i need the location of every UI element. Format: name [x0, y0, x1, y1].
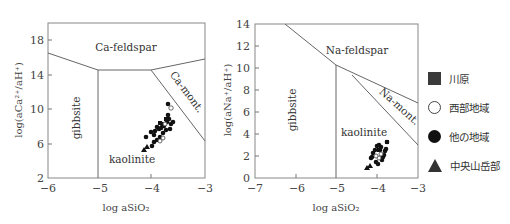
right-region-gibbsite: gibbsite — [286, 89, 298, 132]
legend-item-kawahara: 川原 — [428, 64, 510, 93]
right-region-kaolinite: kaolinite — [341, 126, 387, 138]
left-ytick-10: 10 — [30, 103, 44, 116]
left-region-ca-feldspar: Ca-feldspar — [95, 41, 157, 53]
legend-item-other-regions: 他の地域 — [428, 122, 510, 151]
left-region-ca-mont: Ca-mont. — [168, 69, 207, 115]
right-ytick-14: 14 — [236, 18, 250, 31]
right-ytick-2: 2 — [243, 150, 250, 163]
right-x-axis-label: log aSiO₂ — [312, 202, 359, 213]
left-ytick-18: 18 — [30, 34, 44, 47]
legend-label: 他の地域 — [449, 129, 489, 144]
left-xtick--4: −4 — [144, 182, 160, 195]
legend-label: 西部地域 — [449, 100, 489, 115]
right-ytick-8: 8 — [243, 84, 250, 97]
right-ytick-10: 10 — [236, 62, 250, 75]
left-region-kaolinite: kaolinite — [109, 153, 155, 165]
right-plot: 14 12 10 8 6 4 2 0 −7 −6 −5 −4 −3 log aS… — [222, 18, 426, 213]
left-xtick--3: −3 — [197, 182, 213, 195]
left-xtick--5: −5 — [92, 182, 108, 195]
filled-circle-marker-icon — [428, 130, 441, 143]
right-xtick--7: −7 — [247, 182, 263, 195]
left-y-axis-label: log(aCa²⁺/aH⁺) — [13, 62, 24, 138]
right-region-na-mont: Na-mont. — [377, 85, 422, 127]
left-plot: 18 14 10 6 2 −6 −5 −4 −3 log aSiO₂ log(a… — [13, 23, 213, 213]
left-xtick--6: −6 — [40, 182, 56, 195]
right-xtick--5: −5 — [329, 182, 345, 195]
legend: 川原 西部地域 他の地域 中央山岳部 — [428, 64, 510, 180]
left-ytick-6: 6 — [37, 138, 44, 151]
legend-label: 中央山岳部 — [450, 158, 500, 173]
legend-label: 川原 — [449, 71, 469, 86]
square-marker-icon — [428, 72, 441, 85]
right-xtick--3: −3 — [410, 182, 426, 195]
legend-item-western-region: 西部地域 — [428, 93, 510, 122]
left-ytick-14: 14 — [30, 69, 44, 82]
right-xtick--6: −6 — [289, 182, 305, 195]
right-ytick-12: 12 — [236, 40, 250, 53]
right-ytick-6: 6 — [243, 106, 250, 119]
right-xtick--4: −4 — [370, 182, 386, 195]
open-circle-marker-icon — [428, 101, 441, 114]
right-region-na-feldspar: Na-feldspar — [326, 44, 390, 56]
right-ytick-4: 4 — [243, 128, 250, 141]
triangle-marker-icon — [428, 159, 442, 172]
left-x-axis-label: log aSiO₂ — [102, 202, 149, 213]
left-region-gibbsite: gibbsite — [70, 97, 82, 140]
right-y-axis-label: log(aNa⁺/aH⁺) — [222, 64, 233, 137]
legend-item-central-mountains: 中央山岳部 — [428, 151, 510, 180]
